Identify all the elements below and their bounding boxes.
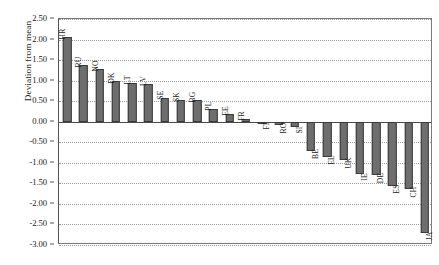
bar-group: HR <box>59 19 75 243</box>
y-tick-mark <box>50 79 54 80</box>
bar-group: RU <box>75 19 91 243</box>
y-tick-label: -1.50 <box>30 177 47 187</box>
gridline <box>59 245 431 246</box>
bar-group: BG <box>189 19 205 243</box>
bar-group: DK <box>108 19 124 243</box>
bar-group: SE <box>157 19 173 243</box>
y-tick-label: -2.00 <box>30 198 47 208</box>
y-tick-label: 0.00 <box>32 116 47 126</box>
bar-category-label: JA <box>425 232 434 241</box>
bar <box>388 122 396 187</box>
y-tick-label: 1.00 <box>32 75 47 85</box>
y-tick-mark <box>50 161 54 162</box>
deviation-from-mean-bar-chart: Deviation from mean 2.502.001.501.000.50… <box>0 0 439 265</box>
y-axis-tick-labels: 2.502.001.501.000.500.00-0.50-1.00-1.50-… <box>22 18 54 244</box>
bar <box>356 122 364 175</box>
y-tick-label: 2.00 <box>32 34 47 44</box>
bar-group: CH <box>400 19 416 243</box>
y-tick-mark <box>50 244 54 245</box>
bar-category-label: SK <box>172 92 181 102</box>
bar-group: BE <box>303 19 319 243</box>
bar <box>128 83 136 122</box>
bar <box>177 100 185 122</box>
bar <box>404 122 412 189</box>
bar <box>372 122 380 175</box>
bar-group: SK <box>173 19 189 243</box>
bar-group: ES <box>384 19 400 243</box>
bar-category-label: HR <box>58 28 67 39</box>
bar-category-label: LT <box>123 75 132 84</box>
y-tick-mark <box>50 182 54 183</box>
bar-group: DE <box>368 19 384 243</box>
y-tick-label: -3.00 <box>30 239 47 249</box>
bar <box>339 122 347 160</box>
bar <box>112 81 120 122</box>
bar <box>421 122 429 234</box>
bar-group: JA <box>417 19 433 243</box>
bar-group: NO <box>92 19 108 243</box>
bar <box>95 69 103 122</box>
y-tick-label: -0.50 <box>30 136 47 146</box>
bar-category-label: EE <box>221 106 230 116</box>
y-tick-label: 2.50 <box>32 13 47 23</box>
bar <box>160 98 168 122</box>
bar-category-label: NO <box>91 60 100 71</box>
bars-layer: HRRUNODKLTLVSESKBGPLEEFRFIROSIBEELUKIEDE… <box>59 19 431 243</box>
bar-category-label: PL <box>204 101 213 110</box>
bar-group: LT <box>124 19 140 243</box>
bar <box>307 122 315 152</box>
bar-category-label: FR <box>237 111 246 121</box>
bar <box>144 84 152 122</box>
bar-group: EL <box>319 19 335 243</box>
bar-group: FI <box>254 19 270 243</box>
y-tick-mark <box>50 120 54 121</box>
y-tick-mark <box>50 141 54 142</box>
y-tick-mark <box>50 18 54 19</box>
bar-category-label: RU <box>74 57 83 68</box>
bar-group: SI <box>287 19 303 243</box>
plot-area: HRRUNODKLTLVSESKBGPLEEFRFIROSIBEELUKIEDE… <box>58 18 432 244</box>
bar-group: UK <box>335 19 351 243</box>
bar <box>323 122 331 158</box>
bar-group: EE <box>222 19 238 243</box>
y-tick-label: 0.50 <box>32 95 47 105</box>
bar-category-label: DK <box>107 72 116 83</box>
y-tick-label: -1.00 <box>30 157 47 167</box>
bar <box>193 100 201 121</box>
y-tick-label: 1.50 <box>32 54 47 64</box>
bar <box>63 37 71 122</box>
y-tick-mark <box>50 59 54 60</box>
bar-category-label: LV <box>139 76 148 86</box>
bar-group: RO <box>270 19 286 243</box>
bar-group: FR <box>238 19 254 243</box>
y-tick-mark <box>50 202 54 203</box>
bar-category-label: BG <box>188 92 197 103</box>
bar-group: LV <box>140 19 156 243</box>
y-tick-label: -2.50 <box>30 218 47 228</box>
bar-group: PL <box>205 19 221 243</box>
bar-category-label: SE <box>156 90 165 99</box>
y-tick-mark <box>50 100 54 101</box>
bar-group: IE <box>352 19 368 243</box>
y-tick-mark <box>50 38 54 39</box>
bar <box>79 65 87 121</box>
y-tick-mark <box>50 223 54 224</box>
